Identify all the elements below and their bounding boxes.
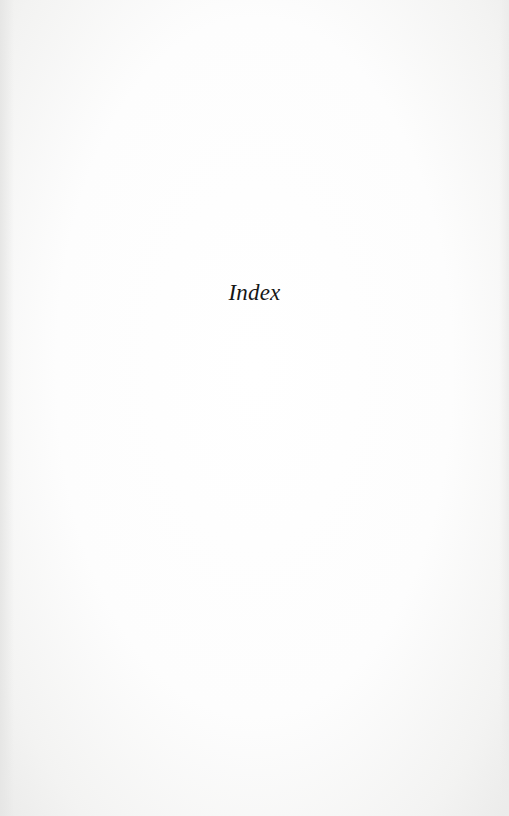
page-title: Index — [0, 280, 509, 306]
book-page: Index — [0, 0, 509, 816]
